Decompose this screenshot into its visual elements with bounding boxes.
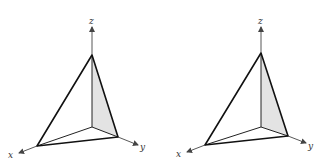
right-tetrahedron-diagram: z y x bbox=[176, 16, 314, 159]
right-x-axis bbox=[187, 145, 205, 152]
figure-canvas: z y x z y x bbox=[0, 0, 319, 161]
right-z-label: z bbox=[257, 16, 263, 26]
left-x-label: x bbox=[8, 150, 13, 160]
left-y-label: y bbox=[139, 142, 146, 152]
right-y-label: y bbox=[307, 141, 314, 151]
left-tetrahedron-diagram: z y x bbox=[8, 16, 146, 160]
left-y-axis bbox=[118, 137, 138, 145]
right-x-label: x bbox=[176, 149, 181, 159]
right-y-axis bbox=[288, 136, 306, 143]
left-x-axis bbox=[19, 146, 37, 153]
left-z-label: z bbox=[88, 16, 94, 26]
